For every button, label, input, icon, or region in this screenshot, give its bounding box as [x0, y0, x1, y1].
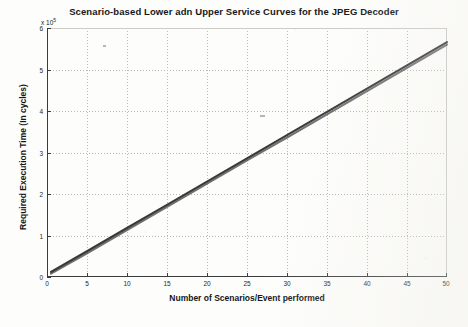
- y-axis-tick-label: 5: [39, 66, 43, 73]
- y-axis-tick: [47, 277, 51, 278]
- data-curves: [47, 28, 447, 277]
- y-axis-tick-label: 0: [39, 274, 43, 281]
- x-axis-tick-label: 45: [403, 280, 410, 287]
- x-axis-tick-label: 30: [283, 280, 290, 287]
- x-axis-label: Number of Scenarios/Event performed: [47, 293, 447, 303]
- chart-title: Scenario-based Lower adn Upper Service C…: [0, 6, 468, 17]
- chart-figure: Scenario-based Lower adn Upper Service C…: [0, 0, 468, 327]
- plot-area: 0 5 10 15 20 25 30 35 40 45 50 0 1 2 3 4…: [47, 28, 447, 277]
- y-axis-tick-label: 2: [39, 191, 43, 198]
- x-axis-tick-label: 25: [243, 280, 250, 287]
- x-axis-tick-label: 35: [323, 280, 330, 287]
- y-axis-label: Required Execution Time (In cycles): [18, 52, 28, 262]
- y-axis-tick-label: 4: [39, 108, 43, 115]
- y-axis-tick-label: 6: [39, 25, 43, 32]
- x-axis-tick-label: 20: [203, 280, 210, 287]
- x-axis-tick-label: 0: [45, 280, 49, 287]
- y-axis-tick-label: 1: [39, 232, 43, 239]
- series-line: [51, 42, 447, 272]
- y-axis-exponent-value: 5: [53, 17, 56, 23]
- y-axis-tick-label: 3: [39, 149, 43, 156]
- x-axis-tick-label: 10: [123, 280, 130, 287]
- x-axis-tick-label: 40: [363, 280, 370, 287]
- x-axis-tick-label: 50: [442, 280, 449, 287]
- x-axis-tick-label: 15: [163, 280, 170, 287]
- series-line: [51, 45, 447, 274]
- x-axis-tick-label: 5: [85, 280, 89, 287]
